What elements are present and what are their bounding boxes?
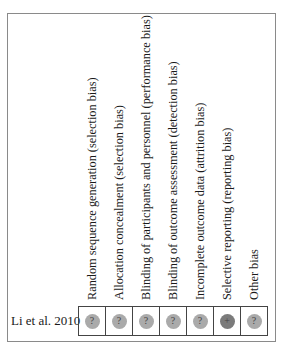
column-label: Other bias — [247, 249, 261, 300]
risk-of-bias-row: ? ? ? ? ? + ? — [78, 306, 268, 336]
risk-cell: ? — [187, 307, 214, 335]
column-header-other-bias: Other bias — [240, 10, 267, 300]
unclear-risk-icon: ? — [193, 314, 208, 329]
column-label: Selective reporting (reporting bias) — [220, 128, 234, 300]
risk-cell: ? — [241, 307, 267, 335]
risk-cell: + — [214, 307, 241, 335]
risk-cell: ? — [160, 307, 187, 335]
column-label: Blinding of participants and personnel (… — [139, 15, 153, 300]
study-label: Li et al. 2010 — [11, 306, 80, 336]
unclear-risk-icon: ? — [139, 314, 154, 329]
column-header-allocation: Allocation concealment (selection bias) — [105, 10, 132, 300]
column-header-selective-reporting: Selective reporting (reporting bias) — [213, 10, 240, 300]
unclear-risk-icon: ? — [247, 314, 262, 329]
column-header-blinding-outcome: Blinding of outcome assessment (detectio… — [159, 10, 186, 300]
column-header-blinding-participants: Blinding of participants and personnel (… — [132, 10, 159, 300]
column-label: Blinding of outcome assessment (detectio… — [166, 61, 180, 300]
risk-cell: ? — [79, 307, 106, 335]
unclear-risk-icon: ? — [166, 314, 181, 329]
column-label: Random sequence generation (selection bi… — [85, 77, 99, 300]
column-label: Incomplete outcome data (attrition bias) — [193, 103, 207, 300]
column-header-incomplete-data: Incomplete outcome data (attrition bias) — [186, 10, 213, 300]
risk-cell: ? — [133, 307, 160, 335]
column-label: Allocation concealment (selection bias) — [112, 105, 126, 300]
unclear-risk-icon: ? — [85, 314, 100, 329]
risk-cell: ? — [106, 307, 133, 335]
column-header-random-sequence: Random sequence generation (selection bi… — [78, 10, 105, 300]
unclear-risk-icon: ? — [112, 314, 127, 329]
low-risk-icon: + — [220, 314, 235, 329]
